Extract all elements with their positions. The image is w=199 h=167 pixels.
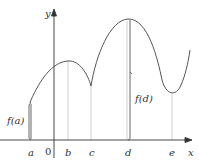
brace-label-f-d: f(d) bbox=[134, 93, 153, 104]
brace-f-d bbox=[128, 20, 132, 140]
function-graph: y x 0 a b c d e f(a) f(d) bbox=[0, 0, 199, 167]
brace-label-f-a: f(a) bbox=[6, 115, 25, 126]
x-axis-arrow-icon bbox=[185, 138, 192, 143]
x-axis-label: x bbox=[188, 147, 194, 158]
point-label-c: c bbox=[89, 147, 95, 158]
point-label-e: e bbox=[169, 147, 175, 158]
point-label-d: d bbox=[125, 147, 131, 158]
y-axis-label: y bbox=[44, 8, 51, 19]
point-label-b: b bbox=[65, 147, 71, 158]
point-label-a: a bbox=[28, 147, 34, 158]
brace-f-a bbox=[29, 103, 31, 140]
origin-label: 0 bbox=[45, 146, 51, 157]
y-axis-arrow-icon bbox=[52, 9, 57, 16]
guide-lines bbox=[68, 21, 172, 140]
